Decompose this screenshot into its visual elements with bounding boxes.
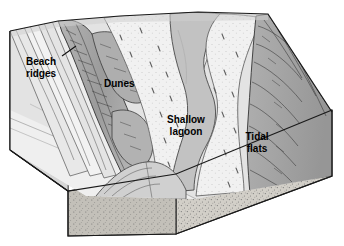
label-tidal-flats-line2: flats	[247, 143, 268, 154]
label-dunes: Dunes	[104, 78, 135, 89]
figure-canvas: Beach ridges Dunes Shallow lagoon Tidal …	[0, 0, 344, 246]
label-tidal-flats-line1: Tidal	[245, 131, 268, 142]
terrain-top-surface	[10, 12, 332, 199]
label-tidal-flats: Tidal flats	[245, 131, 268, 154]
label-shallow-lagoon: Shallow lagoon	[167, 114, 205, 137]
label-shallow-lagoon-line2: lagoon	[170, 126, 203, 137]
label-beach-ridges: Beach ridges	[26, 56, 56, 79]
label-dunes-line1: Dunes	[104, 78, 135, 89]
label-beach-ridges-line2: ridges	[26, 68, 56, 79]
label-shallow-lagoon-line1: Shallow	[167, 114, 205, 125]
label-beach-ridges-line1: Beach	[26, 56, 56, 67]
block-diagram-svg: Beach ridges Dunes Shallow lagoon Tidal …	[0, 0, 344, 246]
marsh-upland	[247, 14, 332, 194]
